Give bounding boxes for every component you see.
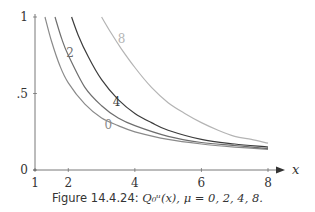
x-tick-label: 6: [198, 176, 206, 190]
y-ticks: 0.51: [17, 10, 37, 177]
curve-mu-4: [72, 17, 268, 147]
curve-label-mu-2: 2: [66, 46, 74, 60]
curve-label-mu-0: 0: [104, 118, 112, 132]
curve-label-mu-8: 8: [118, 32, 126, 46]
y-tick-label: 0: [20, 163, 28, 177]
x-tick-label: 2: [64, 176, 72, 190]
y-tick-label: .5: [17, 87, 28, 101]
y-tick-label: 1: [20, 10, 28, 24]
figure-caption: Figure 14.4.24: Q₀ᵘ(x), μ = 0, 2, 4, 8.: [0, 191, 315, 205]
x-tick-label: 1: [31, 176, 39, 190]
curve-label-mu-4: 4: [113, 95, 121, 109]
x-tick-label: 4: [131, 176, 139, 190]
chart-plot: x 12468 0.51 0248: [0, 0, 315, 190]
caption-prefix: Figure 14.4.24:: [52, 191, 139, 205]
x-ticks: 12468: [31, 168, 272, 190]
x-axis-arrow-icon: [276, 167, 285, 174]
x-tick-label: 8: [264, 176, 272, 190]
axes: x: [33, 14, 300, 177]
curve-mu-2: [55, 17, 268, 149]
curves: [45, 17, 268, 149]
caption-math: Q₀ᵘ(x), μ = 0, 2, 4, 8.: [142, 191, 263, 205]
x-axis-label: x: [292, 162, 300, 177]
curve-mu-8: [102, 17, 268, 143]
